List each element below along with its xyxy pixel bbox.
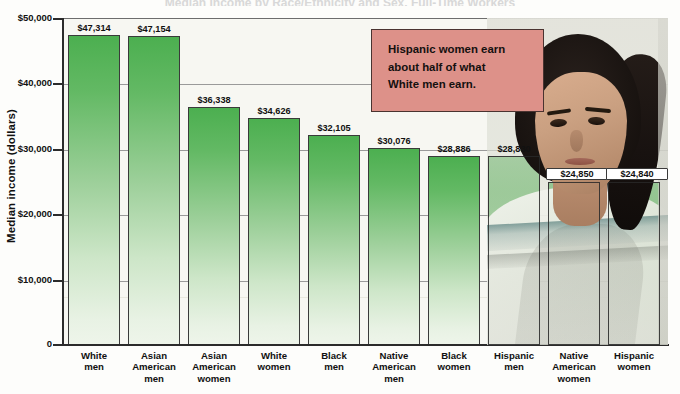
- x-label-line: American: [182, 361, 246, 372]
- value-label-native-american-men: $30,076: [368, 136, 420, 146]
- x-label-black-women: Black women: [422, 350, 486, 373]
- x-label-line: Black: [422, 350, 486, 361]
- x-label-asian-american-men: Asian American men: [122, 350, 186, 384]
- y-tick-50000: [53, 18, 62, 20]
- x-label-line: Asian: [122, 350, 186, 361]
- y-label-0: 0: [0, 338, 52, 349]
- x-label-line: Hispanic: [482, 350, 546, 361]
- chart-title-cropped: Median Income by Race/Ethnicity and Sex,…: [0, 0, 680, 6]
- x-label-line: men: [122, 373, 186, 384]
- x-label-native-american-women: Native American women: [542, 350, 606, 384]
- value-label-native-american-women: $24,850: [546, 168, 608, 180]
- x-label-native-american-men: Native American men: [362, 350, 426, 384]
- x-label-line: women: [242, 361, 306, 372]
- callout-box: Hispanic women earn about half of what W…: [371, 29, 544, 112]
- value-label-white-women: $34,626: [248, 106, 300, 116]
- y-tick-0: [53, 344, 62, 346]
- x-label-asian-american-women: Asian American women: [182, 350, 246, 384]
- x-axis-labels: White men Asian American men Asian Ameri…: [62, 350, 668, 394]
- x-label-line: Native: [542, 350, 606, 361]
- x-label-line: White: [62, 350, 126, 361]
- value-label-asian-american-men: $47,154: [128, 24, 180, 34]
- x-label-line: Black: [302, 350, 366, 361]
- y-tick-30000: [53, 149, 62, 151]
- callout-line-2: about half of what: [388, 59, 543, 77]
- x-label-line: men: [482, 361, 546, 372]
- x-label-line: American: [362, 361, 426, 372]
- y-label-50000: $50,000: [0, 12, 52, 23]
- x-label-line: women: [542, 373, 606, 384]
- y-axis-labels: $50,000 $40,000 $30,000 $20,000 $10,000 …: [0, 0, 52, 394]
- y-tick-10000: [53, 280, 62, 282]
- x-label-line: men: [362, 373, 426, 384]
- x-label-hispanic-men: Hispanic men: [482, 350, 546, 373]
- x-label-white-women: White women: [242, 350, 306, 373]
- x-label-line: White: [242, 350, 306, 361]
- x-label-line: Asian: [182, 350, 246, 361]
- value-label-black-women: $28,886: [428, 144, 480, 154]
- y-axis-title: Median income (dollars): [5, 26, 17, 326]
- x-label-line: women: [602, 361, 666, 372]
- x-label-line: women: [422, 361, 486, 372]
- callout-line-3: White men earn.: [388, 76, 543, 94]
- x-label-line: American: [542, 361, 606, 372]
- value-label-hispanic-men: $28,830: [488, 144, 540, 154]
- callout-line-1: Hispanic women earn: [388, 41, 543, 59]
- y-tick-40000: [53, 83, 62, 85]
- x-label-line: women: [182, 373, 246, 384]
- x-label-white-men: White men: [62, 350, 126, 373]
- bar-value-labels: $47,314 $47,154 $36,338 $34,626 $32,105 …: [62, 18, 668, 345]
- y-tick-20000: [53, 214, 62, 216]
- value-label-asian-american-women: $36,338: [188, 95, 240, 105]
- x-label-hispanic-women: Hispanic women: [602, 350, 666, 373]
- value-label-white-men: $47,314: [68, 23, 120, 33]
- x-label-line: American: [122, 361, 186, 372]
- x-label-line: Native: [362, 350, 426, 361]
- x-label-line: men: [302, 361, 366, 372]
- x-label-line: Hispanic: [602, 350, 666, 361]
- median-income-bar-chart: Median Income by Race/Ethnicity and Sex,…: [0, 0, 680, 394]
- x-label-black-men: Black men: [302, 350, 366, 373]
- value-label-hispanic-women: $24,840: [606, 168, 668, 180]
- value-label-black-men: $32,105: [308, 123, 360, 133]
- x-label-line: men: [62, 361, 126, 372]
